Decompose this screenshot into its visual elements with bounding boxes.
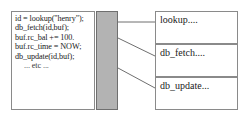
- library-boundary-bar: [96, 11, 118, 110]
- code-line: id = lookup("henry");: [15, 14, 93, 23]
- routine-box-db-fetch: db_fetch....: [155, 44, 238, 77]
- routine-box-lookup: lookup....: [155, 11, 238, 44]
- application-code-box: id = lookup("henry"); db_fetch(id,buf); …: [11, 11, 95, 110]
- diagram-canvas: id = lookup("henry"); db_fetch(id,buf); …: [0, 0, 242, 123]
- code-line: db_update(id,buf);: [15, 52, 93, 61]
- code-line: buf.rc_bal += 100.: [15, 33, 93, 42]
- code-line-etc: ... etc ...: [15, 61, 93, 70]
- code-line: db_fetch(id,buf);: [15, 23, 93, 32]
- code-line: buf.rc_time = NOW;: [15, 42, 93, 51]
- connector-line-db-fetch: [118, 38, 155, 56]
- connector-line-db-update: [118, 68, 155, 88]
- routine-label: db_update...: [160, 80, 209, 92]
- routine-box-db-update: db_update...: [155, 77, 238, 110]
- code-listing: id = lookup("henry"); db_fetch(id,buf); …: [15, 14, 93, 70]
- routine-label: db_fetch....: [160, 47, 205, 59]
- routine-label: lookup....: [160, 14, 198, 26]
